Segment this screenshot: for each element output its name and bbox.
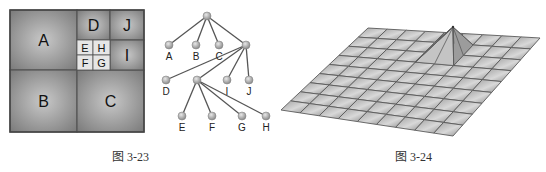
mesh-surface-diagram xyxy=(0,0,546,145)
figure-caption-3-24: 图 3-24 xyxy=(395,147,432,165)
figure-caption-3-23: 图 3-23 xyxy=(112,147,149,165)
mesh-grid xyxy=(281,28,540,136)
